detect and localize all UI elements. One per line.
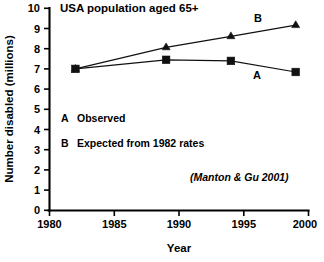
y-tick-label: 0 bbox=[34, 204, 40, 216]
y-tick-label: 4 bbox=[34, 124, 41, 136]
series-b-annotation: B bbox=[254, 12, 262, 24]
legend-label-b: Expected from 1982 rates bbox=[77, 137, 204, 149]
y-tick-labels: 10 9 8 7 6 5 4 3 2 1 0 bbox=[28, 2, 41, 216]
x-axis-title: Year bbox=[167, 242, 192, 254]
legend-key-a: A bbox=[61, 112, 69, 124]
y-axis-title: Number disabled (millions) bbox=[3, 35, 15, 183]
series-a-observed bbox=[72, 56, 300, 76]
y-tick-label: 6 bbox=[34, 83, 40, 95]
citation-annotation: (Manton & Gu 2001) bbox=[190, 171, 289, 183]
x-tick-label: 1995 bbox=[232, 218, 256, 230]
series-a-marker bbox=[292, 68, 300, 76]
series-b-expected bbox=[71, 21, 299, 72]
legend-label-a: Observed bbox=[77, 112, 125, 124]
y-tick-label: 10 bbox=[28, 2, 40, 14]
series-b-line bbox=[75, 25, 295, 69]
chart-title: USA population aged 65+ bbox=[60, 2, 199, 14]
x-tick-label: 2000 bbox=[293, 218, 317, 230]
x-tick-label: 1985 bbox=[102, 218, 126, 230]
chart-figure: 10 9 8 7 6 5 4 3 2 1 0 1980 1985 1990 19… bbox=[0, 0, 324, 262]
x-tick-label: 1980 bbox=[37, 218, 61, 230]
line-chart: 10 9 8 7 6 5 4 3 2 1 0 1980 1985 1990 19… bbox=[0, 0, 324, 262]
y-tick-label: 7 bbox=[34, 63, 40, 75]
y-tick-label: 2 bbox=[34, 164, 40, 176]
series-a-marker bbox=[72, 65, 80, 73]
chart-legend: A Observed B Expected from 1982 rates bbox=[61, 112, 204, 149]
y-tick-label: 9 bbox=[34, 23, 40, 35]
x-tick-label: 1990 bbox=[167, 218, 191, 230]
y-tick-label: 5 bbox=[34, 103, 40, 115]
legend-key-b: B bbox=[61, 137, 69, 149]
y-tick-label: 8 bbox=[34, 43, 40, 55]
series-a-marker bbox=[162, 56, 170, 64]
series-a-annotation: A bbox=[253, 69, 261, 81]
y-tick-label: 3 bbox=[34, 144, 40, 156]
series-b-marker bbox=[292, 21, 300, 28]
x-tick-labels: 1980 1985 1990 1995 2000 bbox=[37, 218, 317, 230]
series-a-marker bbox=[227, 57, 235, 65]
y-tick-label: 1 bbox=[34, 184, 40, 196]
